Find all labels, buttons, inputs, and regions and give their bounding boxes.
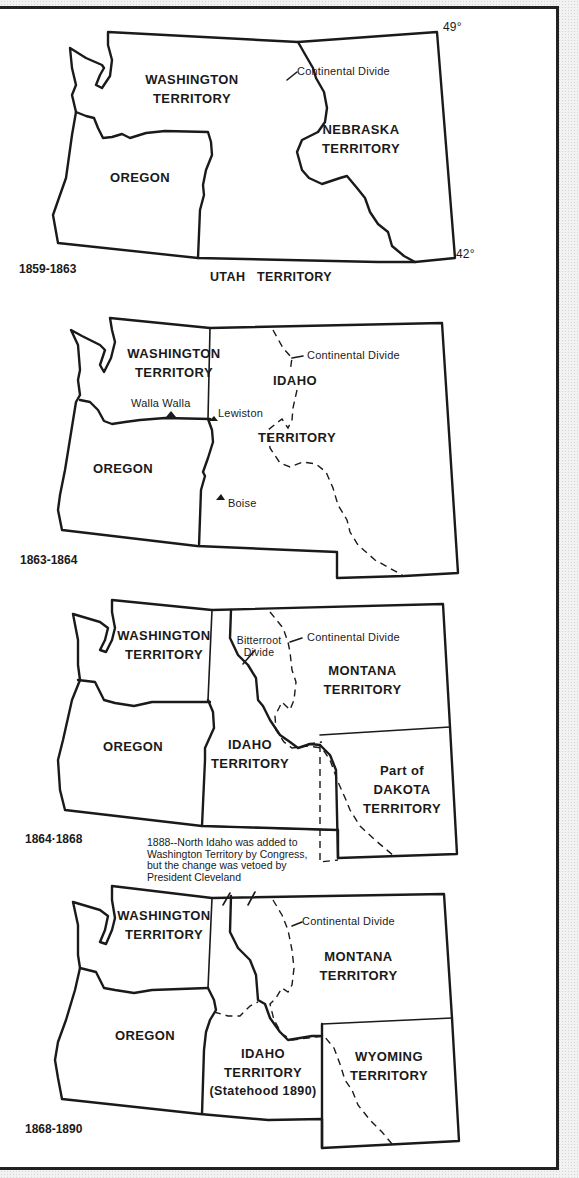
label-washington-territory: WASHINGTONTERRITORY bbox=[142, 70, 242, 108]
label-walla-walla: Walla Walla bbox=[131, 397, 190, 410]
label-latitude-49: 49° bbox=[443, 21, 462, 34]
label-continental-divide: Continental Divide bbox=[307, 349, 400, 362]
north-idaho-note: 1888--North Idaho was added toWashington… bbox=[147, 837, 307, 883]
label-idaho: IDAHO bbox=[265, 371, 325, 390]
label-continental-divide: Continental Divide bbox=[302, 915, 395, 928]
period-label: 1863-1864 bbox=[20, 553, 77, 567]
walla-walla-marker bbox=[166, 411, 176, 417]
label-dakota-territory: Part ofDAKOTATERRITORY bbox=[357, 761, 447, 818]
label-continental-divide: Continental Divide bbox=[307, 631, 400, 644]
label-bitterroot-divide: BitterrootDivide bbox=[233, 634, 285, 658]
period-label: 1868-1890 bbox=[25, 1122, 82, 1136]
label-oregon: OREGON bbox=[88, 459, 158, 478]
label-oregon: OREGON bbox=[105, 168, 175, 187]
label-oregon: OREGON bbox=[98, 737, 168, 756]
label-idaho-territory: IDAHOTERRITORY bbox=[210, 735, 290, 773]
label-montana-territory: MONTANATERRITORY bbox=[311, 947, 406, 985]
territorial-maps bbox=[0, 0, 579, 1178]
label-washington-territory: WASHINGTONTERRITORY bbox=[114, 626, 214, 664]
label-idaho-territory: IDAHOTERRITORY(Statehood 1890) bbox=[203, 1044, 323, 1101]
label-oregon: OREGON bbox=[110, 1026, 180, 1045]
label-washington-territory: WASHINGTONTERRITORY bbox=[114, 906, 214, 944]
label-montana-territory: MONTANATERRITORY bbox=[315, 661, 410, 699]
label-continental-divide: Continental Divide bbox=[297, 65, 390, 78]
label-latitude-42: 42° bbox=[456, 248, 475, 261]
label-utah-territory: UTAH TERRITORY bbox=[206, 268, 336, 287]
label-wyoming-territory: WYOMINGTERRITORY bbox=[344, 1047, 434, 1085]
period-label: 1864·1868 bbox=[25, 832, 82, 846]
period-label: 1859-1863 bbox=[19, 262, 76, 276]
boise-marker bbox=[216, 494, 225, 500]
label-nebraska-territory: NEBRASKATERRITORY bbox=[316, 120, 406, 158]
label-idaho-territory: TERRITORY bbox=[252, 428, 342, 447]
label-washington-territory: WASHINGTONTERRITORY bbox=[114, 344, 234, 382]
label-boise: Boise bbox=[228, 497, 257, 510]
label-lewiston: Lewiston bbox=[218, 407, 263, 420]
